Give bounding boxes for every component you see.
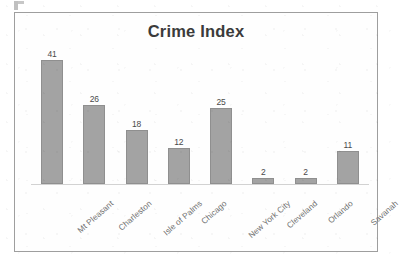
- bar-value-label: 12: [174, 138, 183, 147]
- bar-value-label: 11: [343, 141, 352, 150]
- x-axis-label-isle-of-palms: Isle of Palms: [161, 199, 203, 237]
- bar-value-label: 2: [303, 168, 308, 177]
- bar-chicago[interactable]: 12: [168, 138, 190, 185]
- bar-rectangle[interactable]: [210, 108, 232, 184]
- bar-savanah[interactable]: 11: [337, 141, 359, 185]
- chart-frame: Crime Index 41261812252211 Mt PleasantCh…: [14, 12, 378, 252]
- bar-charleston[interactable]: 26: [83, 95, 105, 185]
- bar-value-label: 2: [261, 168, 266, 177]
- x-axis-label-charleston: Charleston: [117, 199, 154, 232]
- bar-isle-of-palms[interactable]: 18: [126, 120, 148, 185]
- bar-mt-pleasant[interactable]: 41: [41, 50, 63, 185]
- bar-rectangle[interactable]: [337, 151, 359, 184]
- chart-title: Crime Index: [15, 22, 377, 41]
- bar-value-label: 25: [216, 98, 225, 107]
- bar-rectangle[interactable]: [252, 178, 274, 184]
- bar-cleveland[interactable]: 2: [252, 168, 274, 185]
- x-axis-label-new-york-city: New York City: [247, 199, 292, 240]
- bar-rectangle[interactable]: [41, 60, 63, 184]
- bar-rectangle[interactable]: [295, 178, 317, 184]
- x-axis-label-chicago: Chicago: [199, 199, 228, 226]
- bar-value-label: 18: [132, 120, 141, 129]
- bar-rectangle[interactable]: [126, 130, 148, 184]
- bar-new-york-city[interactable]: 25: [210, 98, 232, 185]
- bar-rectangle[interactable]: [168, 148, 190, 184]
- x-axis-label-savanah: Savanah: [369, 199, 400, 227]
- x-axis-label-group: Mt PleasantCharlestonIsle of PalmsChicag…: [15, 199, 379, 261]
- bar-orlando[interactable]: 2: [295, 168, 317, 185]
- x-axis-label-mt-pleasant: Mt Pleasant: [76, 199, 115, 235]
- x-axis-label-orlando: Orlando: [326, 199, 354, 225]
- bar-value-label: 41: [47, 50, 56, 59]
- bar-rectangle[interactable]: [83, 105, 105, 184]
- category-axis-line: [31, 184, 369, 185]
- scan-artifact: [14, 1, 24, 10]
- plot-area: 41261812252211: [31, 51, 367, 184]
- bar-value-label: 26: [90, 95, 99, 104]
